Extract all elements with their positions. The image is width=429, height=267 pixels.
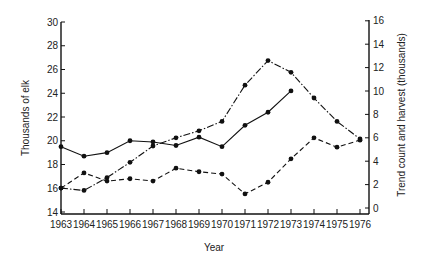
data-point [266, 110, 271, 115]
data-point [289, 156, 294, 161]
data-point [197, 169, 202, 174]
x-tick-label: 1968 [165, 219, 188, 230]
y-right-tick-label: 10 [373, 86, 385, 97]
data-point [197, 135, 202, 140]
data-point [266, 180, 271, 185]
y-left-tick-label: 16 [47, 183, 59, 194]
data-point [243, 83, 248, 88]
y-right-tick-label: 2 [373, 179, 379, 190]
data-point [128, 176, 133, 181]
y-right-tick-label: 6 [373, 132, 379, 143]
x-tick-label: 1965 [96, 219, 119, 230]
data-point [82, 171, 87, 176]
data-point [358, 138, 363, 143]
series-line-dash-dot [61, 61, 360, 191]
y-left-tick-label: 24 [47, 88, 59, 99]
y-right-tick-label: 8 [373, 109, 379, 120]
x-tick-label: 1971 [234, 219, 257, 230]
x-tick-label: 1970 [211, 219, 234, 230]
y-left-tick-label: 26 [47, 64, 59, 75]
data-point [220, 172, 225, 177]
x-tick-label: 1966 [119, 219, 142, 230]
series-lines [59, 58, 363, 196]
data-point [312, 96, 317, 101]
data-point [174, 135, 179, 140]
data-point [335, 145, 340, 150]
series-line-dashed [61, 138, 360, 194]
y-left-tick-label: 30 [47, 17, 59, 28]
data-point [82, 188, 87, 193]
axes: 1416182022242628300246810121416196319641… [47, 15, 385, 230]
data-point [128, 160, 133, 165]
data-point [82, 154, 87, 159]
y-left-tick-label: 28 [47, 40, 59, 51]
y-right-tick-label: 14 [373, 39, 385, 50]
data-point [220, 119, 225, 124]
data-point [289, 88, 294, 93]
data-point [312, 135, 317, 140]
data-point [174, 143, 179, 148]
data-point [243, 192, 248, 197]
data-point [59, 186, 64, 191]
data-point [289, 70, 294, 75]
y-axis-right-label: Trend count and harvest (thousands) [396, 33, 407, 197]
y-right-tick-label: 12 [373, 62, 385, 73]
data-point [59, 144, 64, 149]
data-point [151, 144, 156, 149]
x-tick-label: 1969 [188, 219, 211, 230]
y-axis-left-label: Thousands of elk [20, 79, 31, 156]
x-axis-label: Year [204, 242, 225, 253]
x-tick-label: 1964 [73, 219, 96, 230]
x-tick-label: 1974 [303, 219, 326, 230]
y-right-tick-label: 4 [373, 156, 379, 167]
data-point [151, 179, 156, 184]
data-point [243, 123, 248, 128]
elk-population-chart: 1416182022242628300246810121416196319641… [0, 0, 429, 267]
y-left-tick-label: 14 [47, 207, 59, 218]
x-tick-label: 1976 [349, 219, 372, 230]
y-left-tick-label: 20 [47, 135, 59, 146]
y-right-tick-label: 0 [373, 203, 379, 214]
data-point [335, 119, 340, 124]
data-point [174, 166, 179, 171]
data-point [197, 128, 202, 133]
data-point [105, 150, 110, 155]
y-left-tick-label: 18 [47, 159, 59, 170]
y-right-tick-label: 16 [373, 15, 385, 26]
x-tick-label: 1975 [326, 219, 349, 230]
data-point [105, 179, 110, 184]
x-tick-label: 1967 [142, 219, 165, 230]
data-point [220, 144, 225, 149]
x-tick-label: 1963 [50, 219, 73, 230]
data-point [128, 138, 133, 143]
x-tick-label: 1973 [280, 219, 303, 230]
data-point [266, 58, 271, 63]
x-tick-label: 1972 [257, 219, 280, 230]
y-left-tick-label: 22 [47, 112, 59, 123]
